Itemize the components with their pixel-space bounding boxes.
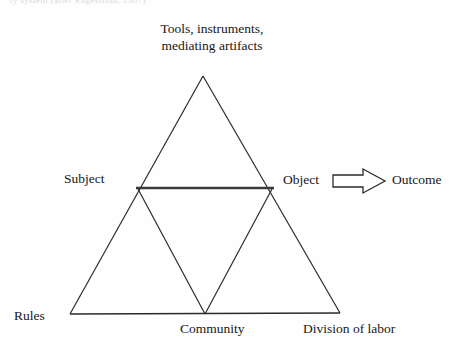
- triangle-edge-apex-to-division: [203, 76, 340, 313]
- diagram-canvas: ty system (after Engeström, 1987) Tools,…: [0, 0, 469, 359]
- node-label-division-of-labor: Division of labor: [303, 320, 395, 337]
- node-label-community: Community: [180, 320, 245, 337]
- node-label-outcome: Outcome: [392, 171, 442, 188]
- triangle-edge-apex-to-rules: [70, 76, 203, 314]
- node-label-tools-line2: mediating artifacts: [132, 37, 292, 54]
- node-label-object: Object: [283, 171, 319, 188]
- edge-subject-to-community: [138, 189, 205, 314]
- node-label-tools-line1: Tools, instruments,: [132, 20, 292, 37]
- edge-object-to-community: [205, 189, 272, 314]
- object-to-outcome-arrow-icon: [333, 169, 385, 193]
- node-label-tools: Tools, instruments, mediating artifacts: [132, 20, 292, 54]
- node-label-subject: Subject: [64, 170, 105, 187]
- node-label-rules: Rules: [14, 307, 45, 324]
